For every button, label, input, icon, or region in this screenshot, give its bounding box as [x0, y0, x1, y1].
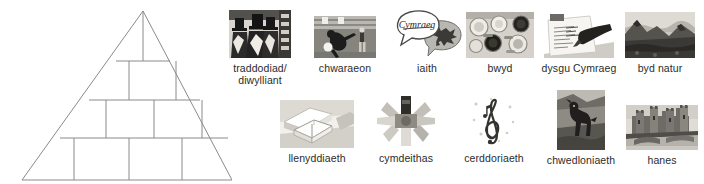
topic-bwyd[interactable]: bwyd — [460, 6, 540, 74]
topic-label: hanes — [622, 154, 702, 166]
thumb-wrap — [450, 92, 538, 148]
topic-label: bwyd — [460, 62, 540, 74]
castle-photo-icon — [626, 100, 698, 150]
topic-cerddoriaeth[interactable]: cerddoriaeth — [450, 92, 538, 164]
thumb-wrap — [272, 96, 362, 148]
topic-label: cymdeithas — [364, 152, 448, 164]
open-book-photo-icon — [280, 100, 354, 148]
pyramid-diagram — [10, 2, 232, 182]
thumb-wrap — [224, 6, 296, 58]
topic-grid: traddodiad/ diwylliant — [224, 0, 704, 184]
thumb-wrap — [620, 6, 700, 58]
pyramid-outline — [22, 11, 232, 180]
topic-cymdeithas[interactable]: cymdeithas — [364, 92, 448, 164]
topic-chwaraeon[interactable]: chwaraeon — [302, 6, 388, 74]
thumb-wrap — [302, 6, 388, 58]
topic-label: iaith — [384, 62, 470, 74]
thumb-wrap: Cymraeg — [384, 2, 470, 58]
topic-label: llenyddiaeth — [272, 152, 362, 164]
treble-clef-icon — [466, 94, 522, 148]
topic-traddodiad-diwylliant[interactable]: traddodiad/ diwylliant — [224, 6, 296, 86]
topic-label: cerddoriaeth — [450, 152, 538, 164]
topic-byd-natur[interactable]: byd natur — [620, 6, 700, 74]
thumb-wrap — [536, 6, 622, 58]
football-player-photo-icon — [314, 16, 376, 58]
thumb-wrap — [536, 88, 626, 150]
thumb-wrap — [622, 94, 702, 150]
stone-animal-photo-icon — [557, 90, 605, 150]
topic-label: chwaraeon — [302, 62, 388, 74]
food-bowls-photo-icon — [466, 12, 534, 58]
topic-label: byd natur — [620, 62, 700, 74]
topic-iaith[interactable]: Cymraeg iaith — [384, 2, 470, 74]
topic-hanes[interactable]: hanes — [622, 94, 702, 166]
topic-label: chwedloniaeth — [536, 154, 626, 166]
topic-label: traddodiad/ diwylliant — [224, 62, 296, 86]
topic-chwedloniaeth[interactable]: chwedloniaeth — [536, 88, 626, 166]
people-star-icon — [375, 94, 437, 148]
thumb-wrap — [460, 6, 540, 58]
topic-dysgu-cymraeg[interactable]: dysgu Cymraeg — [536, 6, 622, 74]
pyramid-svg — [10, 2, 232, 182]
welsh-costume-photo-icon — [229, 10, 291, 58]
mountain-landscape-photo-icon — [625, 12, 695, 58]
topic-llenyddiaeth[interactable]: llenyddiaeth — [272, 96, 362, 164]
topic-label: dysgu Cymraeg — [536, 62, 622, 74]
thumb-wrap — [364, 92, 448, 148]
pen-writing-photo-icon — [544, 12, 614, 58]
slide-canvas: traddodiad/ diwylliant — [0, 0, 704, 184]
speech-bubbles-icon: Cymraeg — [388, 6, 466, 58]
